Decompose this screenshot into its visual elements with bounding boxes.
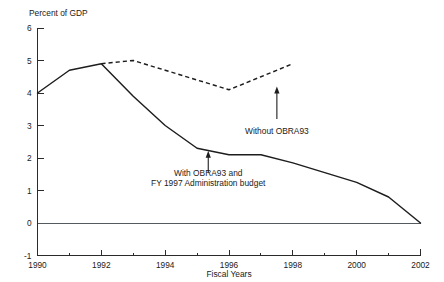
x-tick-label-1994: 1994 xyxy=(156,260,175,270)
y-axis-caption-group: Percent of GDP xyxy=(29,8,88,18)
annotation-text-with-obra93-line-0: With OBRA93 and xyxy=(174,168,243,178)
chart-svg: Percent of GDP -10123456 199019921994199… xyxy=(0,0,444,282)
y-tick-label-5: 5 xyxy=(27,56,32,66)
y-tick-label-2: 2 xyxy=(27,153,32,163)
annotation-text-without-obra93-line-0: Without OBRA93 xyxy=(245,126,309,136)
y-axis-label: Percent of GDP xyxy=(29,8,88,18)
y-tick-label-0: 0 xyxy=(27,218,32,228)
y-tick-label-3: 3 xyxy=(27,121,32,131)
annotations-layer: Without OBRA93With OBRA93 andFY 1997 Adm… xyxy=(151,87,309,189)
y-tick-label-6: 6 xyxy=(27,23,32,33)
annotation-arrow-head-without-obra93 xyxy=(274,87,279,94)
annotation-without-obra93: Without OBRA93 xyxy=(245,87,309,136)
x-tick-label-1990: 1990 xyxy=(28,260,47,270)
y-tick-group xyxy=(38,28,44,256)
axes-group xyxy=(38,28,421,256)
x-tick-label-2002: 2002 xyxy=(411,260,430,270)
annotation-text-with-obra93-line-1: FY 1997 Administration budget xyxy=(151,178,266,188)
series-without-obra93 xyxy=(101,61,292,90)
y-tick-label-1: 1 xyxy=(27,186,32,196)
y-tick-label-group: -10123456 xyxy=(24,23,32,261)
y-tick-label-4: 4 xyxy=(27,88,32,98)
deficit-projection-chart: Percent of GDP -10123456 199019921994199… xyxy=(0,0,444,282)
annotation-arrow-head-with-obra93 xyxy=(206,151,211,158)
x-axis-title: Fiscal Years xyxy=(206,269,251,279)
x-tick-label-1992: 1992 xyxy=(92,260,111,270)
series-with-obra93 xyxy=(38,64,421,223)
x-tick-label-2000: 2000 xyxy=(347,260,366,270)
x-tick-label-1998: 1998 xyxy=(284,260,303,270)
annotation-with-obra93: With OBRA93 andFY 1997 Administration bu… xyxy=(151,151,266,189)
y-tick-label--1: -1 xyxy=(24,251,32,261)
x-tick-group xyxy=(38,250,421,256)
